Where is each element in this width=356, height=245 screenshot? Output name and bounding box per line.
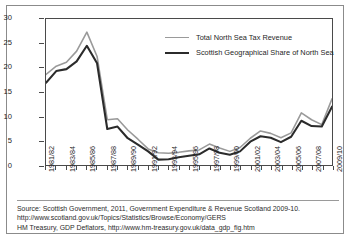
x-tick-mark [302,166,303,170]
legend-swatch [165,37,189,38]
x-tick-mark [240,166,241,170]
x-tick-mark [292,166,293,170]
y-tick-label: 20 [0,63,12,71]
y-tick-label: 15 [0,88,12,96]
x-tick-mark [148,166,149,170]
x-tick-mark [117,166,118,170]
legend-item: Scottish Geographical Share of North Sea [165,45,341,60]
y-tick-mark [39,92,44,93]
y-tick-mark [39,141,44,142]
x-tick-mark [66,166,67,170]
x-tick-mark [179,166,180,170]
line-scottish-geographical-share [46,46,332,160]
legend-label: Scottish Geographical Share of North Sea [196,48,334,57]
x-tick-mark [210,166,211,170]
x-tick-mark [199,166,200,170]
legend-item: Total North Sea Tax Revenue [165,30,341,45]
x-tick-mark [55,166,56,170]
x-tick-label: 2009/10 [336,146,344,172]
x-tick-mark [96,166,97,170]
x-tick-mark [107,166,108,170]
y-tick-mark [39,18,44,19]
x-tick-mark [158,166,159,170]
x-tick-mark [138,166,139,170]
y-tick-mark [39,67,44,68]
figure-container: Tax revenue £billion (2009/10 prices) 05… [6,5,344,234]
y-tick-label: 5 [0,137,12,145]
x-tick-mark [261,166,262,170]
y-tick-label: 30 [0,14,12,22]
y-tick-label: 10 [0,113,12,121]
x-tick-mark [45,166,46,170]
source-note: Source: Scottish Government, 2011, Gover… [17,200,339,232]
y-tick-mark [39,117,44,118]
y-tick-label: 25 [0,39,12,47]
chart-legend: Total North Sea Tax RevenueScottish Geog… [165,30,341,60]
y-tick-mark [39,43,44,44]
x-tick-mark [86,166,87,170]
x-tick-mark [76,166,77,170]
x-tick-mark [230,166,231,170]
x-tick-mark [220,166,221,170]
y-tick-label: 0 [0,162,12,170]
x-tick-mark [333,166,334,170]
x-tick-mark [189,166,190,170]
source-line: http://www.scotland.gov.uk/Topics/Statis… [17,213,339,222]
x-tick-mark [323,166,324,170]
source-line: Source: Scottish Government, 2011, Gover… [17,204,339,213]
legend-label: Total North Sea Tax Revenue [196,33,292,42]
y-tick-mark [39,166,44,167]
legend-swatch [165,52,189,54]
source-line: HM Treasury, GDP Deflators, http://www.h… [17,223,339,232]
x-tick-mark [251,166,252,170]
x-tick-mark [282,166,283,170]
